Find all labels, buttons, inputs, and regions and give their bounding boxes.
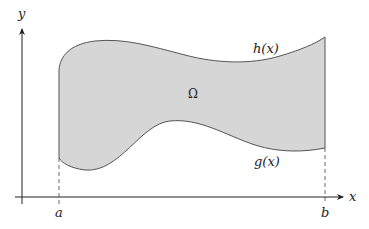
- region-diagram: x y a b h(x) g(x) Ω: [0, 0, 369, 229]
- y-axis-label: y: [17, 6, 26, 21]
- b-label: b: [321, 205, 329, 220]
- a-label: a: [55, 205, 63, 220]
- g-label: g(x): [254, 154, 280, 169]
- omega-label: Ω: [188, 87, 198, 101]
- h-label: h(x): [253, 41, 279, 56]
- x-axis-label: x: [349, 189, 357, 204]
